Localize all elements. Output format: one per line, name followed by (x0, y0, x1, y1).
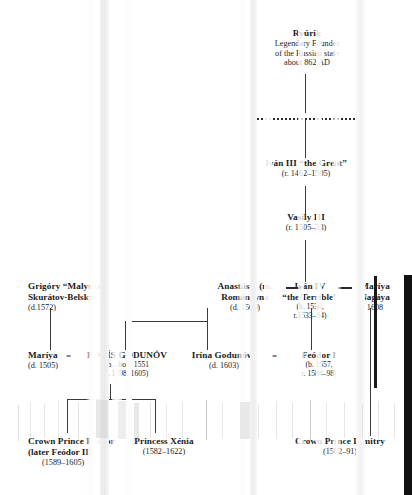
scan-artifact-band-10 (332, 0, 341, 495)
node-irina-godunova-death: (d. 1603) (178, 361, 270, 371)
node-ryurik-line-1: Legendary Founder (247, 39, 367, 49)
node-crown-prince-dimitry: Crown Prince Dimitry (1582–91) (278, 436, 402, 457)
node-irina-godunova: Irína Godunóva (d. 1603) (178, 350, 270, 371)
scan-artifact-band-6 (250, 0, 257, 495)
connector-vasily3-to-ivan4 (305, 240, 306, 282)
node-ivan-iii-name: Iván III “the Great” (235, 158, 377, 169)
marriage-bar-anastasia-ivan4 (286, 287, 300, 289)
node-ivan-iv-name: Iván IV (272, 281, 348, 292)
node-grigory-skuratov: Grigóry “Malyúta” Skurátov-Belsky (d.157… (28, 281, 148, 312)
connector-anastasia-ivan4-down (207, 308, 208, 322)
node-grigory-skuratov-surname: Skurátov-Belsky (28, 292, 148, 303)
node-irina-godunova-name: Irína Godunóva (178, 350, 270, 361)
marriage-symbol-mariya-boris: = (66, 351, 71, 361)
node-ryurik-line-2: of the Russian state (247, 49, 367, 59)
node-crown-prince-dimitry-dates: (1582–91) (278, 447, 402, 457)
node-ivan-iii-reign: (r. 1462–1505) (235, 169, 377, 179)
connector-sibling-bar-gen4 (125, 321, 208, 322)
connector-ivan4-line-down (311, 308, 312, 350)
marriage-symbol-irina-feodor: = (272, 351, 277, 361)
connector-sibling-drop-left (125, 321, 126, 350)
scan-artifact-band-9 (316, 0, 322, 495)
scan-artifact-dark-stripe (374, 276, 377, 388)
node-princess-xenia-dates: (1582–1622) (122, 447, 206, 457)
marriage-bar-ivan4-mariya (338, 287, 352, 289)
connector-grigory-to-mariya (50, 308, 51, 350)
scan-artifact-band-5 (238, 0, 248, 495)
connector-sibling-drop-right (207, 321, 208, 350)
node-ivan-iii: Iván III “the Great” (r. 1462–1505) (235, 158, 377, 179)
node-boris-godunov: BORÍS GODUNÓV (b. about 1551 r. 1598–160… (72, 350, 182, 379)
genealogy-chart-page: Ryúrik Legendary Founder of the Russian … (0, 0, 412, 495)
connector-sibling-bar-gen5 (67, 399, 155, 400)
scan-artifact-band-3 (112, 0, 122, 495)
connector-dotted-omitted-generations (253, 118, 355, 120)
connector-ryurik-down (305, 74, 306, 113)
node-ivan-iv: Iván IV “the Terrible” (b. 1530, r.1533–… (272, 281, 348, 321)
node-feodor-i-reign: r. 1584–98) (282, 370, 356, 379)
node-vasily-iii-reign: (r. 1505–33) (252, 223, 360, 233)
node-vasily-iii: Vasíly III (r. 1505–33) (252, 212, 360, 233)
scan-artifact-band-1 (86, 0, 100, 495)
scan-artifact-band-11 (356, 0, 365, 495)
connector-mariya-nagaya-to-dimitry (370, 308, 371, 436)
connector-ivan3-to-vasily3 (305, 186, 306, 214)
scan-artifact-band-8 (298, 0, 304, 495)
node-princess-xenia-name: Princess Xénia (122, 436, 206, 447)
node-ryurik: Ryúrik Legendary Founder of the Russian … (247, 28, 367, 68)
node-crown-prince-feodor-dates: (1589–1605) (28, 458, 153, 468)
connector-boris-down (110, 384, 111, 399)
node-grigory-skuratov-death: (d.1572) (28, 303, 148, 313)
node-ryurik-line-3: about 862 AD (247, 58, 367, 68)
scan-artifact-streaks (0, 0, 412, 495)
node-feodor-i: Feódor I (b. 1557, r. 1584–98) (282, 350, 356, 379)
connector-drop-feodor2 (67, 399, 68, 433)
scan-artifact-band-2 (100, 0, 109, 495)
node-ryurik-name: Ryúrik (247, 28, 367, 39)
scan-artifact-band-7 (264, 0, 272, 495)
node-boris-godunov-reign: r. 1598–1605) (72, 370, 182, 379)
node-vasily-iii-name: Vasíly III (252, 212, 360, 223)
node-crown-prince-dimitry-name: Crown Prince Dimitry (278, 436, 402, 447)
node-princess-xenia: Princess Xénia (1582–1622) (122, 436, 206, 457)
scan-artifact-band-4 (126, 0, 132, 495)
scan-artifact-right-edge (404, 275, 412, 495)
connector-drop-xenia (155, 399, 156, 433)
node-grigory-skuratov-name: Grigóry “Malyúta” (28, 281, 148, 292)
connector-dotted-to-ivan3 (305, 120, 306, 158)
node-ivan-iv-reign: r.1533–84) (272, 312, 348, 321)
